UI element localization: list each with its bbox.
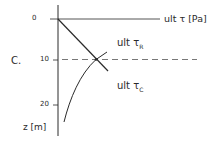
tau-c-label: ult τC xyxy=(117,81,143,91)
tau-c-label-subscript: C xyxy=(139,86,143,93)
tau-r-label: ult τR xyxy=(117,38,143,48)
tick-label-20: 20 xyxy=(40,101,49,108)
tau-r-label-subscript: R xyxy=(139,43,143,50)
tau-r-line xyxy=(58,19,108,71)
panel-label: C. xyxy=(11,56,21,66)
intersection-point xyxy=(95,58,98,61)
tau-axis-label: ult τ [Pa] xyxy=(164,14,207,24)
tau-c-label-base: ult τ xyxy=(117,80,139,91)
tick-label-0: 0 xyxy=(32,15,36,22)
z-axis-label: z [m] xyxy=(23,123,46,132)
tick-label-10: 10 xyxy=(40,56,49,63)
tau-r-label-base: ult τ xyxy=(117,37,139,48)
